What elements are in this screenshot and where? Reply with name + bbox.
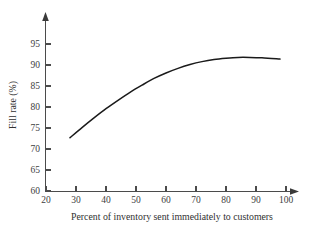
- y-axis-title: Fill rate (%): [7, 81, 19, 129]
- x-tick-label-40: 40: [101, 195, 111, 205]
- y-tick-label-75: 75: [31, 123, 41, 133]
- x-axis-title: Percent of inventory sent immediately to…: [71, 211, 273, 222]
- y-tick-label-70: 70: [31, 144, 41, 154]
- x-tick-marks: [46, 186, 286, 192]
- y-tick-label-65: 65: [31, 165, 41, 175]
- x-tick-label-70: 70: [191, 195, 201, 205]
- y-tick-label-80: 80: [31, 102, 41, 112]
- y-tick-label-95: 95: [31, 39, 41, 49]
- x-tick-label-60: 60: [161, 195, 171, 205]
- y-tick-marks: [46, 44, 52, 191]
- x-tick-label-80: 80: [221, 195, 231, 205]
- chart-plot-area: 60 65 70 75 80 85 90 95 20 30 40 50 60 7…: [0, 0, 310, 236]
- x-tick-label-100: 100: [279, 195, 294, 205]
- y-tick-label-90: 90: [31, 60, 41, 70]
- y-tick-label-60: 60: [31, 186, 41, 196]
- y-axis-arrow-icon: [42, 12, 49, 21]
- x-tick-label-30: 30: [71, 195, 81, 205]
- fill-rate-curve: [70, 57, 280, 137]
- x-tick-label-50: 50: [131, 195, 141, 205]
- x-tick-label-90: 90: [251, 195, 261, 205]
- y-tick-label-85: 85: [31, 81, 41, 91]
- x-tick-label-20: 20: [41, 195, 51, 205]
- chart-figure: 60 65 70 75 80 85 90 95 20 30 40 50 60 7…: [0, 0, 310, 236]
